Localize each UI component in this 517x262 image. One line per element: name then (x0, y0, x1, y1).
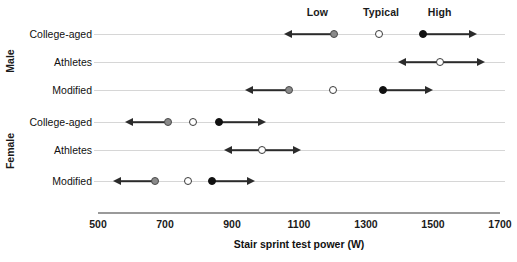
x-tick-900: 900 (223, 218, 241, 230)
high-arrow-line (423, 33, 471, 35)
low-arrow-line (290, 33, 334, 35)
low-marker (151, 177, 159, 185)
typical-marker (436, 58, 444, 66)
x-tick-1300: 1300 (354, 218, 377, 230)
typical-marker (329, 86, 337, 94)
typical-marker (375, 30, 383, 38)
row-baseline (98, 181, 505, 182)
high-marker (379, 86, 387, 94)
high-marker (419, 30, 427, 38)
high-arrow-head-right-icon (247, 177, 255, 185)
group-label-male: Male (4, 31, 16, 91)
low-arrow-line (131, 121, 169, 123)
column-header-low: Low (307, 6, 328, 18)
low-arrow-head-left-icon (113, 177, 121, 185)
row-label-connector (94, 90, 104, 91)
row-label-connector (94, 122, 104, 123)
high-arrow-head-right-icon (258, 118, 266, 126)
high-arrow-line (212, 180, 250, 182)
high-arrow-line (383, 89, 427, 91)
column-header-typical: Typical (363, 6, 399, 18)
low-arrow-head-left-icon (284, 30, 292, 38)
row-label-connector (94, 62, 104, 63)
x-tick-1500: 1500 (421, 218, 444, 230)
low-marker (330, 30, 338, 38)
stair-sprint-power-chart: LowTypicalHighCollege-agedAthletesModifi… (0, 0, 517, 262)
row-label-connector (94, 181, 104, 182)
x-tick-1700: 1700 (488, 218, 511, 230)
typical-arrow-head-right-icon (477, 58, 485, 66)
x-axis-label: Stair sprint test power (W) (234, 238, 365, 250)
x-tick-1100: 1100 (288, 218, 311, 230)
typical-marker (258, 146, 266, 154)
low-marker (164, 118, 172, 126)
row-label-connector (94, 34, 104, 35)
high-arrow-head-right-icon (469, 30, 477, 38)
high-marker (215, 118, 223, 126)
row-baseline (98, 150, 505, 151)
typical-arrow-head-left-icon (224, 146, 232, 154)
x-axis-line (98, 212, 500, 214)
row-baseline (98, 90, 505, 91)
low-arrow-line (251, 89, 289, 91)
row-label-connector (94, 150, 104, 151)
low-arrow-head-left-icon (125, 118, 133, 126)
high-arrow-line (219, 121, 260, 123)
typical-arrow-head-left-icon (398, 58, 406, 66)
typical-marker (184, 177, 192, 185)
column-header-high: High (428, 6, 452, 18)
typical-arrow-head-right-icon (293, 146, 301, 154)
low-arrow-head-left-icon (245, 86, 253, 94)
low-marker (285, 86, 293, 94)
low-arrow-line (119, 180, 155, 182)
x-tick-700: 700 (156, 218, 174, 230)
typical-marker (189, 118, 197, 126)
x-tick-500: 500 (89, 218, 107, 230)
group-label-female: Female (4, 121, 16, 181)
high-marker (208, 177, 216, 185)
high-arrow-head-right-icon (425, 86, 433, 94)
